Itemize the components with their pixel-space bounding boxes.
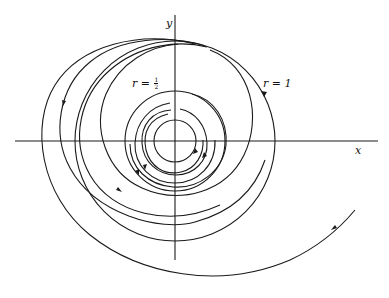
- x-axis-label: x: [355, 145, 361, 156]
- y-axis-label: y: [166, 18, 172, 29]
- fraction-denominator: 2: [154, 83, 158, 90]
- arrow-icon: [116, 187, 122, 192]
- outer-cycle-label: r = 1: [263, 78, 291, 89]
- phase-portrait-diagram: [0, 0, 389, 298]
- inner-cycle-label-prefix: r =: [132, 77, 153, 90]
- inner-cycle-label: r = 12: [132, 77, 158, 90]
- spiral-outer-b: [42, 39, 355, 276]
- fraction-one-half: 12: [154, 77, 158, 90]
- arrow-icon: [261, 91, 267, 97]
- spiral-outer-a: [60, 40, 265, 225]
